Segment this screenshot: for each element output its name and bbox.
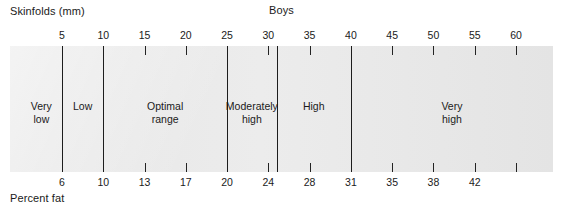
- percent-fat-tick-label-35: 35: [386, 176, 398, 188]
- percent-fat-tick-label-38: 38: [428, 176, 440, 188]
- category-divider-40: [351, 46, 352, 172]
- skinfold-tick-30: [268, 46, 269, 55]
- percent-fat-tick-42: [475, 163, 476, 172]
- band-label-moderately_high: Moderately high: [226, 100, 278, 126]
- skinfold-tick-label-50: 50: [428, 29, 440, 41]
- skinfold-tick-label-15: 15: [139, 29, 151, 41]
- percent-fat-tick-label-24: 24: [263, 176, 275, 188]
- skinfold-tick-label-55: 55: [469, 29, 481, 41]
- skinfold-tick-55: [475, 46, 476, 55]
- skinfold-tick-label-40: 40: [345, 29, 357, 41]
- band-label-low: Low: [73, 100, 92, 113]
- skinfold-tick-35: [310, 46, 311, 55]
- percent-fat-tick-label-42: 42: [469, 176, 481, 188]
- percent-fat-tick-label-31: 31: [345, 176, 357, 188]
- skinfold-tick-label-30: 30: [263, 29, 275, 41]
- percent-fat-tick-17: [186, 163, 187, 172]
- band-label-optimal_range: Optimal range: [147, 100, 183, 126]
- percent-fat-tick-label-13: 13: [139, 176, 151, 188]
- band-label-very_low: Very low: [31, 100, 52, 126]
- chart-title: Boys: [269, 4, 294, 16]
- band-label-high: High: [303, 100, 325, 113]
- percent-fat-tick-label-20: 20: [221, 176, 233, 188]
- percent-fat-tick-label-6: 6: [59, 176, 65, 188]
- percent-fat-tick-label-28: 28: [304, 176, 316, 188]
- category-divider-10: [103, 46, 104, 172]
- skinfold-tick-label-25: 25: [221, 29, 233, 41]
- skinfold-tick-label-35: 35: [304, 29, 316, 41]
- skinfold-tick-label-60: 60: [510, 29, 522, 41]
- skinfolds-axis-label: Skinfolds (mm): [10, 5, 85, 17]
- skinfold-tick-15: [145, 46, 146, 55]
- chart-figure: Skinfolds (mm) Boys 51015202530354045505…: [0, 0, 572, 211]
- percent-fat-tick-13: [145, 163, 146, 172]
- percent-fat-tick-unlabeled: [516, 163, 517, 172]
- skinfold-tick-label-20: 20: [180, 29, 192, 41]
- skinfold-tick-50: [433, 46, 434, 55]
- skinfold-tick-20: [186, 46, 187, 55]
- skinfold-tick-45: [392, 46, 393, 55]
- skinfold-tick-label-45: 45: [386, 29, 398, 41]
- percent-fat-tick-35: [392, 163, 393, 172]
- skinfold-tick-label-5: 5: [59, 29, 65, 41]
- skinfold-tick-label-10: 10: [97, 29, 109, 41]
- percent-fat-tick-24: [268, 163, 269, 172]
- percent-fat-tick-label-17: 17: [180, 176, 192, 188]
- band-label-very_high: Very high: [441, 100, 462, 126]
- percent-fat-tick-38: [433, 163, 434, 172]
- percent-fat-tick-28: [310, 163, 311, 172]
- percent-fat-axis-label: Percent fat: [10, 192, 64, 204]
- category-divider-5: [62, 46, 63, 172]
- percent-fat-tick-label-10: 10: [97, 176, 109, 188]
- skinfold-tick-60: [516, 46, 517, 55]
